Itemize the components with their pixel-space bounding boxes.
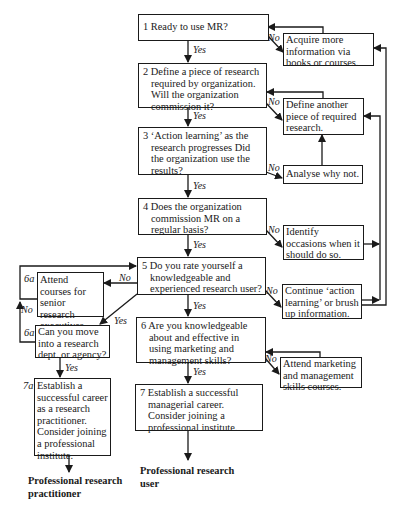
step-6-text: 6 Are you knowledgeable about and effect… [141, 320, 262, 366]
define-another-box: Define another piece of required researc… [283, 98, 364, 135]
no-label-6: No [265, 353, 277, 364]
no-label-5-to-6a: No [119, 272, 131, 283]
analyse-why-box: Analyse why not. [283, 165, 363, 184]
step-7-box: 7 Establish a successful managerial care… [135, 384, 263, 431]
define-another-text: Define another piece of required researc… [286, 99, 356, 133]
step-2-box: 2 Define a piece of research required by… [138, 63, 267, 108]
acquire-info-box: Acquire more information via books or co… [283, 33, 374, 66]
identify-occasions-text: Identify occasions when it should do so. [286, 226, 360, 260]
step-7a-label: 7a [23, 380, 33, 391]
step-6a-label: 6a [24, 273, 34, 284]
step-1-box: 1 Ready to use MR? [138, 14, 269, 41]
attend-marketing-text: Attend marketing and management skills c… [283, 358, 356, 392]
step-7a-text: Establish a successful career as a resea… [37, 380, 108, 461]
step-5-text: 5 Do you rate yourself a knowledgeable a… [142, 260, 262, 295]
continue-learning-box: Continue ‘action learning’ or brush up i… [282, 284, 362, 319]
step-1-text: 1 Ready to use MR? [143, 21, 228, 32]
step-6a-q-label: 6a [24, 327, 34, 338]
identify-occasions-box: Identify occasions when it should do so. [283, 225, 364, 260]
yes-label-2: Yes [193, 110, 206, 121]
no-label-6a-loop: No [21, 304, 33, 315]
yes-label-4: Yes [193, 239, 206, 250]
no-label-1: No [268, 32, 280, 43]
step-7a-box: Establish a successful career as a resea… [34, 378, 111, 456]
step-6a-move-box: Can you move into a research dept. or ag… [35, 325, 110, 358]
step-6a-attend-box: Attend courses for senior research execu… [37, 272, 104, 317]
step-7-text: 7 Establish a successful managerial care… [140, 387, 259, 433]
no-label-4: No [268, 224, 280, 235]
step-3-box: 3 ‘Action learning’ as the research prog… [138, 127, 267, 175]
step-6a-attend-text: Attend courses for senior research execu… [40, 274, 86, 331]
outcome-user: Professional research user [140, 464, 235, 490]
outcome-practitioner: Professional research practitioner [28, 474, 128, 500]
yes-label-1: Yes [193, 44, 206, 55]
no-label-2: No [268, 96, 280, 107]
yes-label-5-to-6a: Yes [114, 315, 127, 326]
step-5-box: 5 Do you rate yourself a knowledgeable a… [137, 257, 266, 295]
step-4-text: 4 Does the organization commission MR on… [143, 201, 263, 236]
yes-label-6a-to-7a: Yes [65, 362, 78, 373]
step-3-text: 3 ‘Action learning’ as the research prog… [143, 130, 263, 176]
attend-marketing-box: Attend marketing and management skills c… [280, 357, 362, 388]
no-label-5: No [266, 285, 278, 296]
acquire-info-text: Acquire more information via books or co… [286, 34, 358, 68]
step-6-box: 6 Are you knowledgeable about and effect… [136, 317, 266, 363]
step-6a-move-text: Can you move into a research dept. or ag… [38, 326, 106, 360]
continue-learning-text: Continue ‘action learning’ or brush up i… [285, 285, 359, 319]
analyse-why-text: Analyse why not. [286, 168, 359, 179]
yes-label-6: Yes [193, 366, 206, 377]
no-label-3: No [268, 162, 280, 173]
step-2-text: 2 Define a piece of research required by… [143, 66, 263, 112]
step-4-box: 4 Does the organization commission MR on… [138, 198, 267, 235]
yes-label-3: Yes [193, 180, 206, 191]
yes-label-5: Yes [193, 300, 206, 311]
